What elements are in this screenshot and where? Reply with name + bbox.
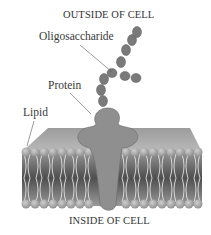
- protein-label: Protein: [48, 79, 81, 91]
- oligosaccharide-label: Oligosaccharide: [39, 30, 114, 42]
- lipid-label: Lipid: [23, 106, 48, 118]
- outside-of-cell-label: OUTSIDE OF CELL: [63, 9, 154, 20]
- inside-of-cell-label: INSIDE OF CELL: [69, 215, 150, 226]
